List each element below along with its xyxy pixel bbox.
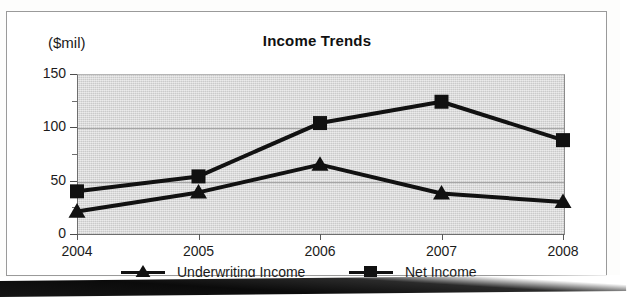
y-tick-major-50: [70, 181, 77, 182]
gridline-100: [78, 128, 564, 129]
y-tick-label-0: 0: [7, 225, 66, 241]
y-tick-minor-25: [72, 207, 77, 208]
x-tick-2007: [442, 234, 443, 240]
y-tick-minor-125: [72, 101, 77, 102]
y-tick-major-100: [70, 127, 77, 128]
y-tick-major-150: [70, 74, 77, 75]
x-tick-2004: [77, 234, 78, 240]
x-tick-2008: [563, 234, 564, 240]
x-tick-2006: [320, 234, 321, 240]
chart-figure-frame: ($mil) Income Trends 050100150 200420052…: [6, 11, 607, 276]
y-tick-label-100: 100: [7, 118, 66, 134]
x-tick-2005: [199, 234, 200, 240]
y-tick-label-50: 50: [7, 172, 66, 188]
gridline-50: [78, 182, 564, 183]
x-tick-label-2005: 2005: [159, 243, 239, 259]
x-tick-label-2004: 2004: [37, 243, 117, 259]
x-tick-label-2007: 2007: [402, 243, 482, 259]
y-tick-minor-75: [72, 154, 77, 155]
chart-title: Income Trends: [7, 32, 627, 49]
y-tick-major-0: [70, 234, 77, 235]
plot-texture-overlay: [78, 75, 564, 235]
plot-area: [77, 74, 565, 235]
x-tick-label-2006: 2006: [280, 243, 360, 259]
x-tick-label-2008: 2008: [523, 243, 603, 259]
y-tick-label-150: 150: [7, 65, 66, 81]
